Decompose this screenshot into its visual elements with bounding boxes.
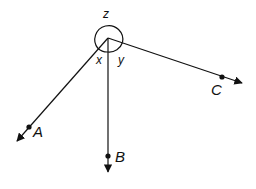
label-angle-x: x [95, 53, 103, 67]
point-c [219, 74, 224, 79]
angle-z-arc [95, 26, 123, 49]
angle-x-arc [98, 49, 108, 53]
label-a: A [32, 123, 43, 140]
label-angle-y: y [117, 53, 125, 67]
label-b: B [115, 148, 125, 165]
angle-diagram: A B C x y z [0, 0, 256, 189]
angle-y-arc [108, 43, 123, 53]
point-a [26, 124, 31, 129]
label-angle-z: z [102, 7, 109, 21]
label-c: C [211, 81, 222, 98]
point-b [105, 153, 110, 158]
